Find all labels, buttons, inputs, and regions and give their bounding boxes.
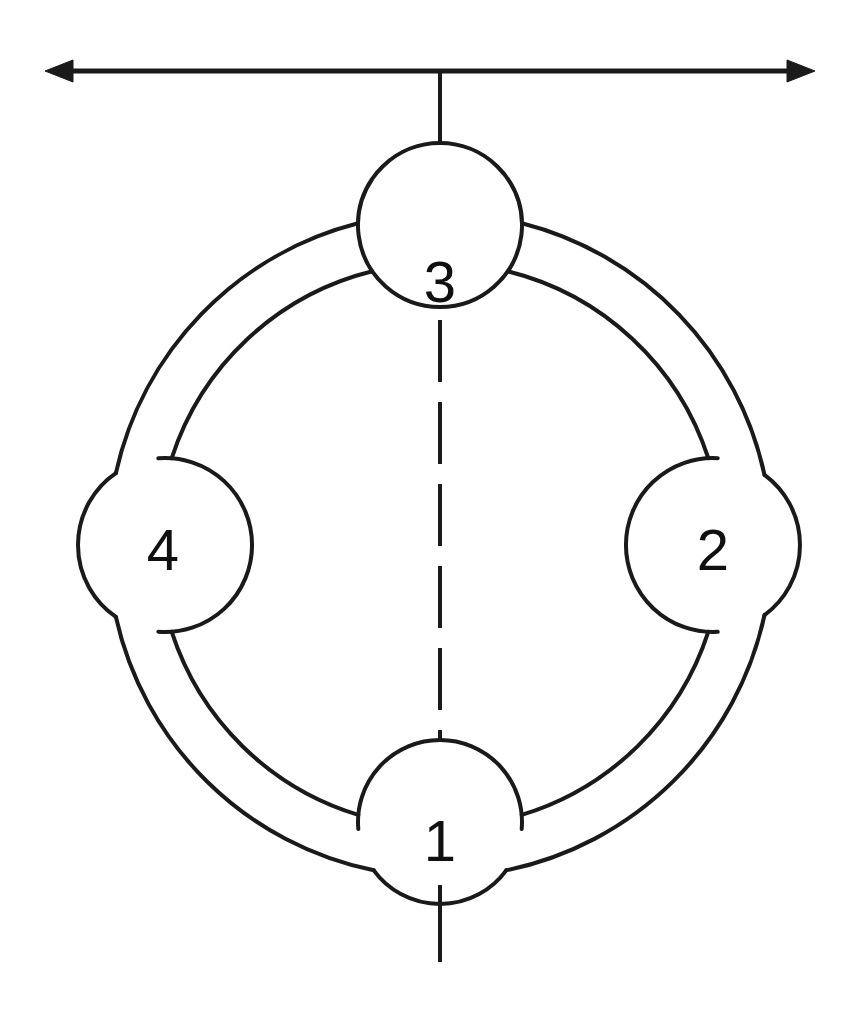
band-inner-arc-bottom-left (172, 271, 373, 458)
band-inner-arc-top-right (522, 632, 709, 815)
node-label-1: 1 (424, 808, 456, 873)
diagram-canvas: 1 2 3 4 (0, 0, 856, 1014)
band-inner-arc-top-left (508, 271, 709, 458)
band-outer-arc-bottom-right (116, 617, 374, 871)
horizontal-double-arrow (45, 60, 815, 82)
node-label-2: 2 (697, 517, 729, 582)
technical-diagram: 1 2 3 4 (0, 0, 856, 1014)
band-outer-arc-top-right (506, 615, 764, 870)
arrow-head-left-icon (45, 60, 73, 82)
arrow-head-right-icon (787, 60, 815, 82)
node-label-3: 3 (424, 249, 456, 314)
band-inner-arc-bottom-right (172, 632, 359, 815)
node-label-4: 4 (147, 517, 179, 582)
